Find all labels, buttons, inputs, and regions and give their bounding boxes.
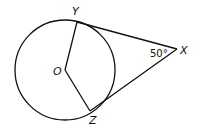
label-z: Z [88, 114, 97, 127]
radius-oz [65, 70, 90, 111]
label-o: O [53, 65, 62, 78]
angle-label: 50° [150, 48, 168, 59]
label-y: Y [72, 5, 80, 18]
geometry-diagram: Y O Z X 50° [0, 0, 211, 130]
radius-oy [65, 22, 77, 70]
tangent-yx [77, 22, 177, 49]
label-x: X [179, 44, 188, 57]
